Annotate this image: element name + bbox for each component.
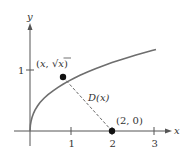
point-2-0-label: (2, 0) [116, 115, 143, 126]
distance-segment [63, 77, 112, 131]
point-2-0 [109, 128, 115, 134]
x-tick-label-3: 3 [152, 138, 158, 149]
distance-label: D(x) [87, 92, 110, 103]
point-label-sqrt: √x [52, 58, 64, 69]
x-tick-label-2: 2 [110, 138, 116, 149]
x-tick-label-1: 1 [69, 138, 75, 149]
x-axis-arrow-icon [165, 129, 172, 134]
point-on-curve-label: (x, √x) [36, 58, 68, 69]
point-on-curve [60, 74, 66, 80]
distance-diagram: y x 1 2 3 1 (x, √x) D(x) (2, 0) [0, 0, 186, 156]
y-axis-arrow-icon [28, 23, 33, 30]
y-tick-label-1: 1 [18, 65, 24, 76]
point-label-close: ) [64, 58, 68, 69]
distance-label-arg: (x) [96, 92, 110, 103]
distance-label-d: D [87, 92, 96, 103]
x-axis-label: x [174, 125, 180, 136]
diagram-canvas: y x 1 2 3 1 (x, √x) D(x) (2, 0) [0, 0, 186, 156]
y-axis-label: y [26, 11, 33, 22]
